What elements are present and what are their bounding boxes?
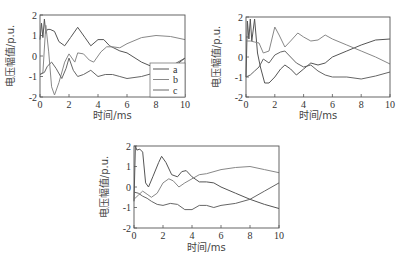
legend-label-a: a xyxy=(173,64,178,75)
y-tick-label: -1 xyxy=(123,202,131,213)
series-b-line xyxy=(246,27,390,64)
x-axis-title: 时间/ms xyxy=(299,109,337,121)
y-tick-label: 1 xyxy=(126,161,131,172)
x-tick-label: 10 xyxy=(385,99,395,110)
y-tick-label: -2 xyxy=(235,92,243,103)
y-tick-label: 1 xyxy=(238,32,243,43)
x-tick-label: 6 xyxy=(330,99,335,110)
x-tick-label: 0 xyxy=(244,99,249,110)
y-axis-title: 电压幅值/p.u. xyxy=(210,26,222,88)
series-a-line xyxy=(40,19,185,69)
legend-label-b: b xyxy=(173,74,178,85)
x-tick-label: 10 xyxy=(274,230,284,241)
x-tick-label: 4 xyxy=(96,99,101,110)
y-tick-label: 2 xyxy=(238,12,243,23)
plot-frame xyxy=(134,146,279,228)
plot-frame xyxy=(246,17,390,97)
y-tick-label: 2 xyxy=(32,10,37,21)
x-tick-label: 8 xyxy=(154,99,159,110)
x-tick-label: 10 xyxy=(180,99,190,110)
x-tick-label: 6 xyxy=(219,230,224,241)
series-b-line xyxy=(134,167,279,200)
x-tick-label: 2 xyxy=(272,99,277,110)
series-a-line xyxy=(134,146,279,209)
y-tick-label: -1 xyxy=(235,72,243,83)
chart-panel-top-left: 0246810-2-1012时间/ms电压幅值/p.u.abc xyxy=(4,10,190,122)
x-tick-label: 8 xyxy=(359,99,364,110)
x-tick-label: 2 xyxy=(67,99,72,110)
y-axis-title: 电压幅值/p.u. xyxy=(98,156,110,218)
x-tick-label: 4 xyxy=(301,99,306,110)
x-axis-title: 时间/ms xyxy=(93,109,131,121)
y-tick-label: -1 xyxy=(29,71,37,82)
x-axis-title: 时间/ms xyxy=(187,241,225,253)
legend-label-c: c xyxy=(173,85,178,96)
series-c-line xyxy=(134,183,279,210)
chart-panel-bottom-center: 0246810-2-1012时间/ms电压幅值/p.u. xyxy=(98,141,284,254)
y-tick-label: -2 xyxy=(123,223,131,234)
y-tick-label: 0 xyxy=(126,182,131,193)
y-axis-title: 电压幅值/p.u. xyxy=(4,25,16,87)
legend: abc xyxy=(150,63,185,97)
x-tick-label: 0 xyxy=(132,230,137,241)
chart-panel-top-right: 0246810-2-1012时间/ms电压幅值/p.u. xyxy=(210,12,395,122)
y-tick-label: 0 xyxy=(238,52,243,63)
y-tick-label: 0 xyxy=(32,51,37,62)
x-tick-label: 4 xyxy=(190,230,195,241)
x-tick-label: 8 xyxy=(248,230,253,241)
figure-canvas: 0246810-2-1012时间/ms电压幅值/p.u.abc 0246810-… xyxy=(0,0,405,265)
x-tick-label: 2 xyxy=(161,230,166,241)
x-tick-label: 0 xyxy=(38,99,43,110)
y-tick-label: -2 xyxy=(29,92,37,103)
y-tick-label: 1 xyxy=(32,30,37,41)
x-tick-label: 6 xyxy=(125,99,130,110)
y-tick-label: 2 xyxy=(126,141,131,152)
